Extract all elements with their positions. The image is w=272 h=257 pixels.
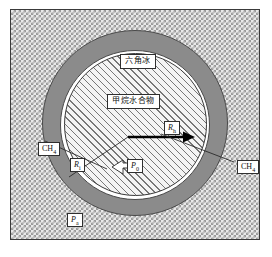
hexagonal-ice-label: 六角冰: [120, 54, 156, 69]
figure-root: 六角冰 甲烷水合物 Rh Ri P0 CH4 CH4 Pa: [0, 0, 272, 257]
methane-hydrate-label: 甲烷水合物: [107, 94, 160, 109]
core-pressure-subscript: 0: [136, 166, 139, 172]
methane-hydrate-core: [64, 53, 207, 196]
methane-left-symbol: CH: [42, 144, 53, 153]
methane-left-label: CH4: [38, 142, 60, 156]
radius-inner-subscript: i: [79, 165, 81, 171]
radius-outer-label: Rh: [164, 121, 180, 135]
methane-right-label: CH4: [237, 160, 259, 174]
core-pressure-label: P0: [127, 159, 143, 173]
outer-pressure-subscript: a: [76, 220, 79, 226]
methane-left-subscript: 4: [53, 149, 56, 155]
radius-outer-subscript: h: [173, 128, 176, 134]
methane-right-subscript: 4: [252, 167, 255, 173]
figure-frame: 六角冰 甲烷水合物 Rh Ri P0 CH4 CH4 Pa: [10, 9, 260, 240]
radius-inner-label: Ri: [70, 158, 85, 172]
outer-pressure-label: Pa: [67, 213, 83, 227]
methane-right-symbol: CH: [241, 162, 252, 171]
